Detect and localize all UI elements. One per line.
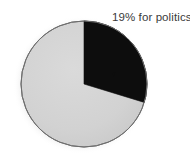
pie-chart-figure: 19% for politics	[0, 0, 190, 166]
pie-chart-svg	[0, 0, 190, 166]
slice-annotation-label: 19% for politics	[112, 10, 190, 24]
